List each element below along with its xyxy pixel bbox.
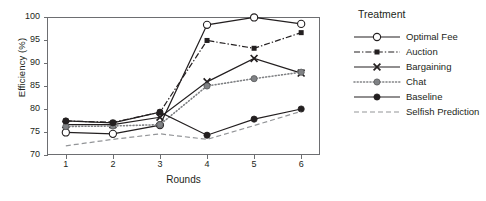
legend-key-none-icon (352, 105, 402, 119)
data-point (298, 20, 305, 27)
data-point (299, 30, 304, 35)
x-tick-label: 1 (56, 159, 76, 169)
x-tick-mark (160, 155, 161, 159)
legend-items: Optimal FeeAuctionBargainingChatBaseline… (352, 29, 486, 119)
series-lines (47, 17, 320, 155)
chart-figure: 707580859095100 123456 Efficiency (%) Ro… (0, 0, 486, 201)
series-line (66, 58, 301, 124)
data-point (203, 21, 210, 28)
legend-key-cross-x-icon (352, 60, 402, 74)
series-bargaining (62, 55, 304, 128)
x-tick-mark (301, 155, 302, 159)
data-point (374, 78, 380, 84)
legend-item-selfish-prediction[interactable]: Selfish Prediction (352, 104, 486, 119)
x-tick-label: 6 (291, 159, 311, 169)
x-axis-title: Rounds (47, 174, 320, 185)
legend-item-baseline[interactable]: Baseline (352, 89, 486, 104)
legend-key-filled-square-icon (352, 45, 402, 59)
x-tick-label: 2 (103, 159, 123, 169)
legend-key-open-circle-icon (352, 30, 402, 44)
data-point (251, 76, 257, 82)
x-tick-label: 5 (244, 159, 264, 169)
data-point (157, 109, 163, 115)
legend: Treatment Optimal FeeAuctionBargainingCh… (352, 8, 486, 119)
data-point (63, 118, 69, 124)
legend-item-optimal-fee[interactable]: Optimal Fee (352, 29, 486, 44)
data-point (157, 122, 163, 128)
data-point (252, 46, 257, 51)
x-tick-mark (113, 155, 114, 159)
y-tick-mark (44, 155, 48, 156)
legend-label: Auction (406, 46, 438, 57)
data-point (109, 130, 116, 137)
plot-area: 707580859095100 123456 Efficiency (%) Ro… (0, 0, 340, 201)
y-tick-label: 75 (18, 127, 40, 136)
legend-key-filled-circle-gray-icon (352, 75, 402, 89)
data-point (298, 69, 304, 75)
data-point (375, 49, 380, 54)
legend-label: Baseline (406, 91, 442, 102)
data-point (204, 83, 210, 89)
legend-item-bargaining[interactable]: Bargaining (352, 59, 486, 74)
legend-key-filled-circle-icon (352, 90, 402, 104)
legend-label: Selfish Prediction (406, 106, 479, 117)
data-point (110, 120, 116, 126)
x-tick-mark (66, 155, 67, 159)
legend-item-auction[interactable]: Auction (352, 44, 486, 59)
data-point (251, 55, 258, 62)
data-point (298, 106, 304, 112)
y-axis-title: Efficiency (%) (16, 18, 27, 118)
data-point (373, 33, 380, 40)
series-auction (63, 30, 303, 125)
x-tick-label: 3 (150, 159, 170, 169)
data-point (251, 14, 258, 21)
data-point (374, 93, 380, 99)
data-point (251, 116, 257, 122)
data-point (204, 132, 210, 138)
x-tick-label: 4 (197, 159, 217, 169)
legend-label: Bargaining (406, 61, 451, 72)
x-tick-mark (207, 155, 208, 159)
legend-label: Optimal Fee (406, 31, 458, 42)
legend-item-chat[interactable]: Chat (352, 74, 486, 89)
y-tick-label: 70 (18, 150, 40, 159)
x-tick-mark (254, 155, 255, 159)
legend-label: Chat (406, 76, 426, 87)
data-point (205, 38, 210, 43)
legend-title: Treatment (358, 8, 486, 20)
